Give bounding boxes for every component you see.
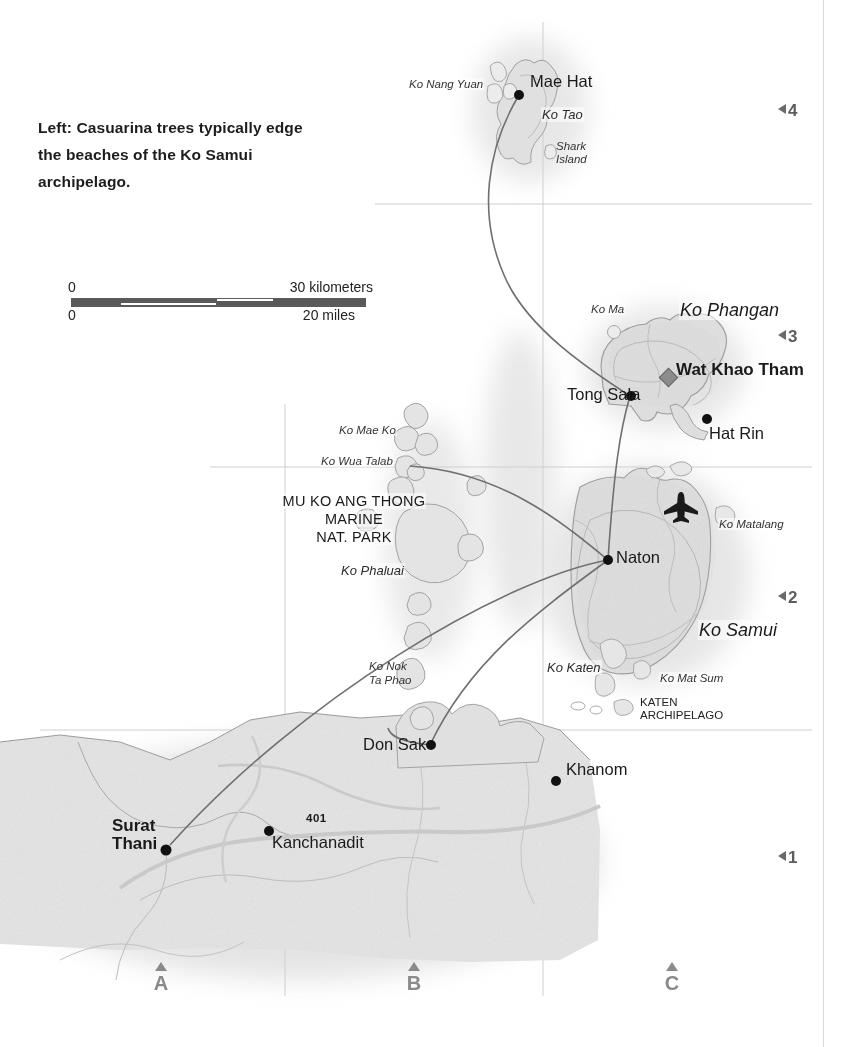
scale-km-label: 30 kilometers bbox=[290, 279, 373, 295]
scale-mi-label: 20 miles bbox=[303, 307, 355, 323]
scale-bar-frame bbox=[71, 298, 366, 307]
scale-bar-graphic bbox=[71, 298, 366, 307]
triangle-left-icon bbox=[778, 851, 786, 861]
grid-row-1: 1 bbox=[778, 848, 797, 868]
label-ko-nang-yuan: Ko Nang Yuan bbox=[408, 78, 484, 90]
label-mae-hat: Mae Hat bbox=[530, 72, 592, 91]
label-ko-mae-ko: Ko Mae Ko bbox=[338, 424, 397, 436]
figure-caption: Left: Casuarina trees typically edge the… bbox=[38, 114, 328, 195]
triangle-up-icon bbox=[408, 962, 420, 971]
grid-row-2: 2 bbox=[778, 588, 797, 608]
label-wat-khao-tham: Wat Khao Tham bbox=[676, 360, 804, 380]
label-shark-island-line2: Island bbox=[556, 153, 587, 165]
dot-naton bbox=[603, 555, 613, 565]
label-tong-sala: Tong Sala bbox=[567, 385, 640, 404]
page-right-rule bbox=[823, 0, 824, 1047]
label-ko-wua-talab: Ko Wua Talab bbox=[320, 455, 394, 467]
label-ko-mat-sum: Ko Mat Sum bbox=[659, 672, 724, 684]
label-ko-phaluai: Ko Phaluai bbox=[340, 563, 405, 578]
label-ko-phangan: Ko Phangan bbox=[679, 300, 780, 321]
dot-hat-rin bbox=[702, 414, 712, 424]
label-naton: Naton bbox=[616, 548, 660, 567]
triangle-left-icon bbox=[778, 104, 786, 114]
dot-khanom bbox=[551, 776, 561, 786]
label-ko-tao: Ko Tao bbox=[541, 107, 584, 122]
label-ko-ma: Ko Ma bbox=[590, 303, 625, 315]
scale-bar: 0 30 kilometers 0 20 miles bbox=[68, 279, 373, 327]
label-shark-island-line1: Shark bbox=[556, 140, 586, 152]
triangle-left-icon bbox=[778, 330, 786, 340]
label-surat-thani-line2: Thani bbox=[112, 834, 157, 854]
dot-mae-hat bbox=[514, 90, 524, 100]
scale-mi-zero: 0 bbox=[68, 307, 76, 323]
label-khanom: Khanom bbox=[566, 760, 627, 779]
triangle-left-icon bbox=[778, 591, 786, 601]
grid-col-a: A bbox=[141, 962, 181, 995]
label-marine-park: MU KO ANG THONG MARINE NAT. PARK bbox=[278, 492, 430, 546]
label-route-401: 401 bbox=[306, 812, 327, 824]
label-don-sak: Don Sak bbox=[363, 735, 426, 754]
grid-col-b: B bbox=[394, 962, 434, 995]
triangle-up-icon bbox=[155, 962, 167, 971]
label-hat-rin: Hat Rin bbox=[709, 424, 764, 443]
label-ko-nok-line1: Ko Nok bbox=[369, 660, 407, 672]
grid-col-c: C bbox=[652, 962, 692, 995]
dot-don-sak bbox=[426, 740, 436, 750]
dot-surat-thani bbox=[161, 845, 172, 856]
label-ko-katen: Ko Katen bbox=[546, 660, 602, 675]
map-page: Left: Casuarina trees typically edge the… bbox=[0, 0, 846, 1047]
label-ko-nok-line2: Ta Phao bbox=[369, 674, 411, 686]
scale-km-zero: 0 bbox=[68, 279, 76, 295]
label-katen-archipelago: KATEN ARCHIPELAGO bbox=[639, 696, 724, 722]
label-ko-matalang: Ko Matalang bbox=[718, 518, 785, 530]
grid-row-4: 4 bbox=[778, 101, 797, 121]
label-kanchanadit: Kanchanadit bbox=[272, 833, 364, 852]
label-ko-samui: Ko Samui bbox=[698, 620, 778, 641]
grid-row-3: 3 bbox=[778, 327, 797, 347]
triangle-up-icon bbox=[666, 962, 678, 971]
label-surat-thani-line1: Surat bbox=[112, 816, 155, 836]
